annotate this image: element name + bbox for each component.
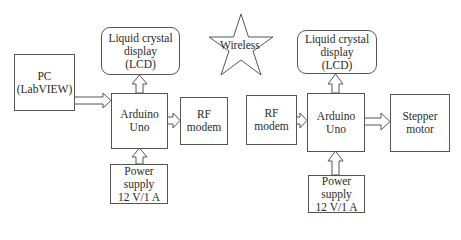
pc-labview-box: PC (LabVIEW) bbox=[14, 54, 75, 111]
power-supply-box-left: Power supply 12 V/1 A bbox=[110, 164, 168, 204]
stepper-label-line1: Stepper bbox=[402, 110, 437, 123]
pc-sublabel: (LabVIEW) bbox=[17, 83, 73, 96]
rf-label-line1: RF bbox=[197, 108, 211, 121]
power-label-line1: Power bbox=[124, 165, 153, 178]
arrow-arduino-to-lcd-right bbox=[328, 74, 343, 93]
arrow-arduino-to-rf-left bbox=[167, 113, 180, 128]
arrow-arduino-to-lcd-left bbox=[132, 75, 147, 93]
rf-label-line1: RF bbox=[264, 107, 278, 120]
arduino-label-line1: Arduino bbox=[317, 110, 355, 123]
arduino-label-line1: Arduino bbox=[120, 108, 158, 121]
power-label-line3: 12 V/1 A bbox=[118, 191, 160, 204]
power-label-line3: 12 V/1 A bbox=[316, 201, 358, 214]
wireless-label: Wireless bbox=[220, 39, 260, 51]
arrow-arduino-to-stepper bbox=[364, 113, 390, 130]
arduino-label-line2: Uno bbox=[326, 123, 346, 136]
pc-label: PC bbox=[37, 70, 51, 83]
arrow-rf-to-arduino-right bbox=[296, 113, 307, 128]
lcd-label-line1: Liquid crystal bbox=[108, 32, 172, 45]
lcd-label-line3: (LCD) bbox=[322, 59, 353, 72]
arduino-uno-box-left: Arduino Uno bbox=[111, 93, 168, 149]
stepper-label-line2: motor bbox=[406, 123, 433, 136]
lcd-box-right: Liquid crystal display (LCD) bbox=[297, 30, 377, 74]
power-supply-box-right: Power supply 12 V/1 A bbox=[308, 175, 365, 213]
rf-modem-box-right: RF modem bbox=[246, 95, 297, 145]
arrow-power-to-arduino-left bbox=[132, 148, 147, 164]
lcd-label-line3: (LCD) bbox=[125, 58, 156, 71]
arduino-uno-box-right: Arduino Uno bbox=[307, 93, 365, 152]
stepper-motor-box: Stepper motor bbox=[390, 94, 450, 152]
rf-modem-box-left: RF modem bbox=[180, 97, 228, 145]
lcd-label-line2: display bbox=[320, 46, 353, 59]
lcd-label-line2: display bbox=[124, 45, 157, 58]
lcd-box-left: Liquid crystal display (LCD) bbox=[101, 27, 180, 75]
lcd-label-line1: Liquid crystal bbox=[305, 33, 369, 46]
power-label-line1: Power bbox=[322, 175, 351, 188]
rf-label-line2: modem bbox=[187, 121, 222, 134]
arrow-pc-to-arduino bbox=[74, 93, 111, 108]
rf-label-line2: modem bbox=[254, 120, 289, 133]
power-label-line2: supply bbox=[321, 188, 352, 201]
arduino-label-line2: Uno bbox=[130, 121, 150, 134]
arrow-power-to-arduino-right bbox=[328, 151, 343, 175]
power-label-line2: supply bbox=[124, 178, 155, 191]
